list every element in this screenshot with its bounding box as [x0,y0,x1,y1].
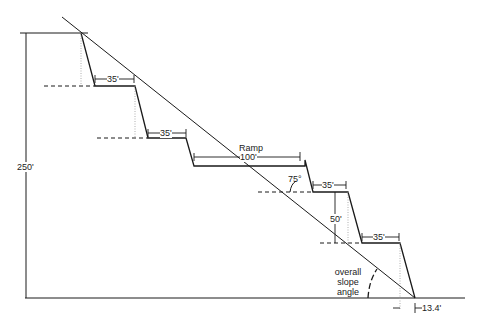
height-label: 250' [17,162,34,172]
face-angle-label: 75° [288,174,302,184]
slope-angle-line2: slope [328,277,368,287]
slope-angle-line1: overall [328,267,368,277]
bench-width-label-2: 35' [160,128,172,138]
bench-height-label: 50' [330,214,342,224]
bench-width-label-4: 35' [373,232,385,242]
slope-angle-line3: angle [328,287,368,297]
slope-angle-arc [368,269,377,298]
ramp-width-label: 100' [240,152,257,162]
slope-angle-label: overall slope angle [328,267,368,297]
dashed-bench-lines [44,86,362,243]
bench-width-label-3: 35' [322,180,334,190]
slope-diagram [0,0,481,326]
toe-offset-label: 13.4' [422,303,441,313]
overall-slope-line [62,17,415,298]
bench-width-label-1: 35' [107,74,119,84]
